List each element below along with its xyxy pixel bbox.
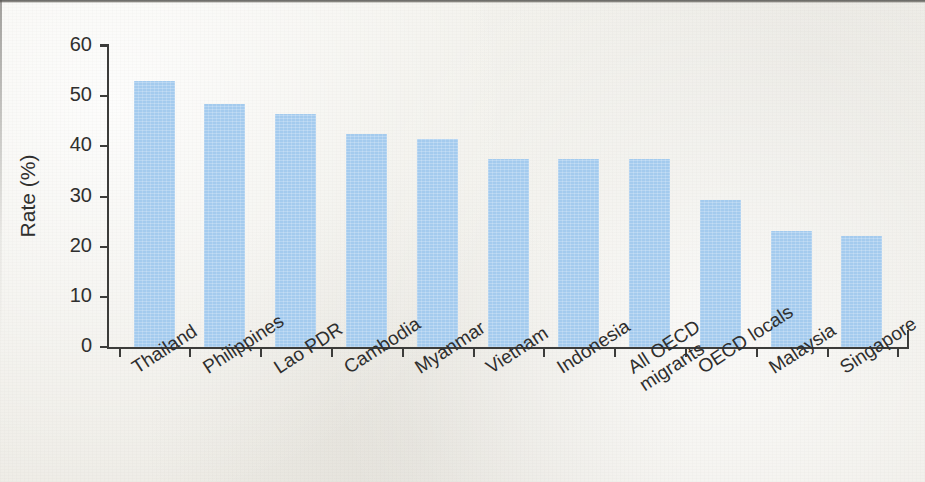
y-axis-tick: 20: [100, 246, 108, 248]
x-axis-tick: [827, 347, 829, 357]
y-axis-tick: 30: [100, 196, 108, 198]
y-axis-tick-label: 50: [70, 83, 92, 106]
x-axis-tick: [402, 347, 404, 357]
y-axis-title: Rate (%): [16, 155, 40, 238]
bar: [417, 139, 458, 347]
y-axis-tick: 10: [100, 296, 108, 298]
y-axis-tick-label: 60: [70, 33, 92, 56]
x-axis-tick: [119, 347, 121, 357]
bar: [275, 114, 316, 347]
x-axis-tick: [260, 347, 262, 357]
y-axis-tick: 60: [100, 45, 108, 47]
scan-edge-top: [0, 0, 925, 3]
x-axis-tick: [614, 347, 616, 357]
y-axis-tick: 40: [100, 145, 108, 147]
bar: [204, 104, 245, 347]
y-axis-tick: 50: [100, 95, 108, 97]
x-axis-tick: [897, 347, 899, 357]
bar: [700, 200, 741, 347]
scan-edge-left: [0, 0, 2, 340]
x-axis-tick: [473, 347, 475, 357]
y-axis-tick-label: 0: [81, 334, 92, 357]
y-axis-tick-label: 10: [70, 284, 92, 307]
bar: [488, 159, 529, 347]
x-axis-tick: [756, 347, 758, 357]
x-axis-tick: [543, 347, 545, 357]
y-axis-tick-label: 30: [70, 184, 92, 207]
bar: [629, 159, 670, 347]
y-axis-tick-label: 20: [70, 234, 92, 257]
y-axis-title-container: Rate (%): [30, 46, 32, 347]
y-axis-tick: 0: [100, 346, 108, 348]
bar: [346, 134, 387, 347]
x-axis-tick: [189, 347, 191, 357]
bar: [841, 236, 882, 347]
plot-area: 0102030405060: [108, 46, 908, 347]
y-axis-tick-label: 40: [70, 133, 92, 156]
bar: [134, 81, 175, 347]
x-axis-tick: [331, 347, 333, 357]
chart-figure: Rate (%) 0102030405060 ThailandPhilippin…: [0, 0, 925, 482]
bar: [558, 159, 599, 347]
